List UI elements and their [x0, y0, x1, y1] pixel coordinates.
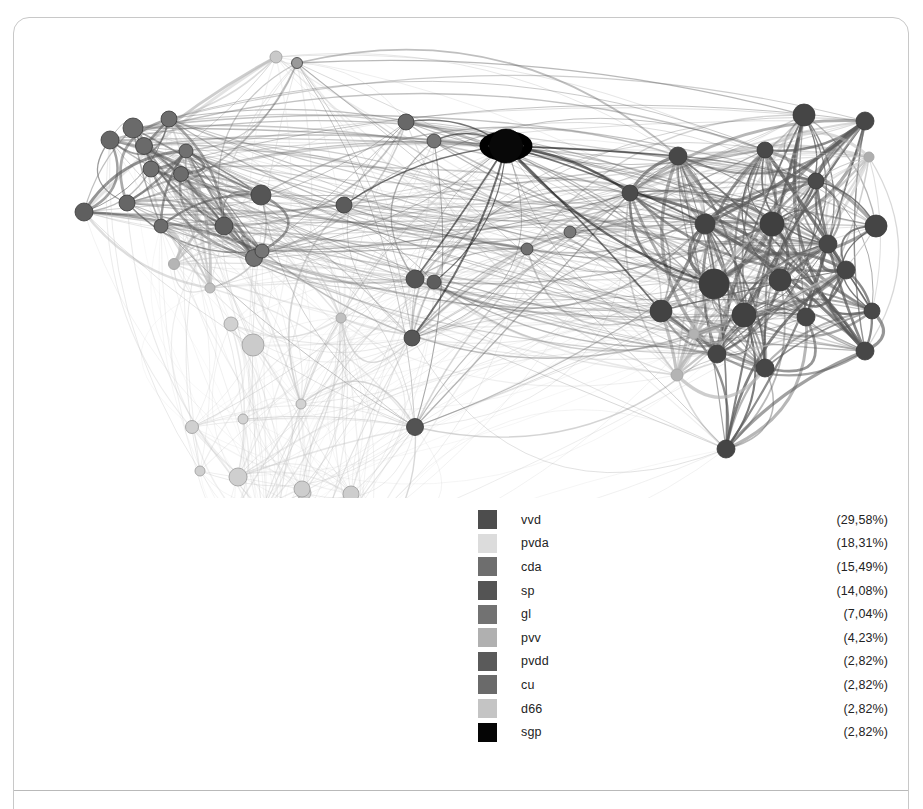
- graph-node-cda[interactable]: [75, 203, 93, 221]
- legend-label-gl: gl: [521, 607, 531, 621]
- legend-row-pvv[interactable]: pvv(4,23%): [478, 626, 888, 650]
- graph-node-pvda[interactable]: [238, 414, 248, 424]
- legend-percent-pvv: (4,23%): [844, 631, 888, 645]
- legend-label-pvdd: pvdd: [521, 654, 549, 668]
- legend-percent-cu: (2,82%): [844, 678, 888, 692]
- legend-swatch-pvdd: [478, 652, 497, 671]
- legend-swatch-sgp: [478, 723, 497, 742]
- graph-node-cda[interactable]: [123, 118, 143, 138]
- graph-node-vvd[interactable]: [864, 303, 880, 319]
- graph-node-vvd[interactable]: [837, 261, 855, 279]
- figure-page: vvd(29,58%)pvda(18,31%)cda(15,49%)sp(14,…: [0, 0, 923, 809]
- legend-label-pvda: pvda: [521, 536, 549, 550]
- legend-row-d66[interactable]: d66(2,82%): [478, 697, 888, 721]
- graph-node-sp[interactable]: [407, 419, 424, 436]
- legend-swatch-gl: [478, 605, 497, 624]
- graph-node-vvd[interactable]: [650, 300, 672, 322]
- legend-percent-pvdd: (2,82%): [844, 654, 888, 668]
- graph-node-vvd[interactable]: [732, 303, 756, 327]
- legend-swatch-pvda: [478, 534, 497, 553]
- legend-swatch-d66: [478, 699, 497, 718]
- graph-edge: [406, 122, 677, 375]
- legend-swatch-cu: [478, 675, 497, 694]
- graph-node-cda[interactable]: [101, 131, 119, 149]
- graph-node-cda[interactable]: [174, 167, 189, 182]
- graph-node-sp[interactable]: [251, 185, 271, 205]
- graph-node-gl[interactable]: [292, 58, 303, 69]
- graph-node-pvda[interactable]: [195, 466, 205, 476]
- graph-node-gl[interactable]: [564, 226, 576, 238]
- graph-node-vvd[interactable]: [819, 235, 837, 253]
- graph-node-sp[interactable]: [336, 197, 352, 213]
- graph-node-vvd[interactable]: [699, 269, 729, 299]
- network-graph-canvas: [14, 18, 908, 498]
- graph-node-vvd[interactable]: [769, 269, 791, 291]
- graph-node-pvv[interactable]: [864, 152, 874, 162]
- legend-label-sp: sp: [521, 584, 535, 598]
- legend-swatch-vvd: [478, 510, 497, 529]
- legend-percent-pvda: (18,31%): [836, 536, 888, 550]
- graph-node-pvda[interactable]: [343, 486, 359, 498]
- graph-node-vvd[interactable]: [760, 212, 784, 236]
- legend-label-cu: cu: [521, 678, 535, 692]
- graph-node-vvd[interactable]: [622, 185, 638, 201]
- graph-node-sp[interactable]: [404, 330, 420, 346]
- graph-node-vvd[interactable]: [808, 173, 824, 189]
- graph-node-pvda[interactable]: [224, 317, 238, 331]
- graph-node-pvda[interactable]: [270, 51, 282, 63]
- legend-label-cda: cda: [521, 560, 542, 574]
- graph-node-pvda[interactable]: [336, 313, 346, 323]
- graph-node-gl[interactable]: [427, 134, 441, 148]
- legend-row-pvda[interactable]: pvda(18,31%): [478, 532, 888, 556]
- graph-node-cda[interactable]: [215, 217, 233, 235]
- legend-swatch-sp: [478, 581, 497, 600]
- graph-node-pvda[interactable]: [242, 334, 264, 356]
- graph-node-cda[interactable]: [143, 161, 159, 177]
- graph-node-vvd[interactable]: [856, 112, 874, 130]
- graph-node-pvv[interactable]: [689, 329, 699, 339]
- legend-percent-gl: (7,04%): [844, 607, 888, 621]
- graph-node-cda[interactable]: [521, 243, 533, 255]
- graph-node-pvda[interactable]: [296, 399, 306, 409]
- graph-node-vvd[interactable]: [695, 214, 715, 234]
- graph-node-cda[interactable]: [179, 144, 193, 158]
- graph-node-pvda[interactable]: [294, 481, 310, 497]
- legend-label-sgp: sgp: [521, 725, 542, 739]
- legend-row-cu[interactable]: cu(2,82%): [478, 673, 888, 697]
- legend-percent-vvd: (29,58%): [836, 513, 888, 527]
- graph-node-cda[interactable]: [161, 111, 177, 127]
- graph-node-pvda[interactable]: [169, 259, 180, 270]
- party-legend: vvd(29,58%)pvda(18,31%)cda(15,49%)sp(14,…: [478, 508, 888, 744]
- graph-node-pvda[interactable]: [229, 468, 247, 486]
- graph-edge: [276, 53, 678, 156]
- graph-node-vvd[interactable]: [865, 215, 887, 237]
- graph-node-vvd[interactable]: [757, 142, 773, 158]
- graph-node-vvd[interactable]: [669, 147, 687, 165]
- legend-row-cda[interactable]: cda(15,49%): [478, 555, 888, 579]
- graph-node-sp[interactable]: [406, 270, 424, 288]
- legend-row-sgp[interactable]: sgp(2,82%): [478, 720, 888, 744]
- graph-node-cda[interactable]: [154, 219, 168, 233]
- graph-node-pvda[interactable]: [205, 283, 215, 293]
- graph-node-vvd[interactable]: [717, 440, 735, 458]
- graph-node-cda[interactable]: [398, 114, 414, 130]
- graph-node-vvd[interactable]: [797, 308, 815, 326]
- legend-row-pvdd[interactable]: pvdd(2,82%): [478, 650, 888, 674]
- legend-row-vvd[interactable]: vvd(29,58%): [478, 508, 888, 532]
- graph-node-vvd[interactable]: [856, 342, 874, 360]
- graph-node-pvda[interactable]: [186, 421, 199, 434]
- graph-node-pvv[interactable]: [671, 369, 683, 381]
- graph-node-cda[interactable]: [119, 195, 135, 211]
- legend-row-sp[interactable]: sp(14,08%): [478, 579, 888, 603]
- graph-node-vvd[interactable]: [756, 359, 774, 377]
- legend-row-gl[interactable]: gl(7,04%): [478, 602, 888, 626]
- graph-node-vvd[interactable]: [708, 345, 726, 363]
- legend-percent-sp: (14,08%): [836, 584, 888, 598]
- graph-node-sp[interactable]: [427, 275, 441, 289]
- graph-node-gl[interactable]: [255, 244, 269, 258]
- legend-label-pvv: pvv: [521, 631, 541, 645]
- graph-node-sgp[interactable]: [489, 129, 523, 163]
- graph-node-cda[interactable]: [136, 138, 153, 155]
- graph-node-vvd[interactable]: [793, 104, 815, 126]
- legend-percent-sgp: (2,82%): [844, 725, 888, 739]
